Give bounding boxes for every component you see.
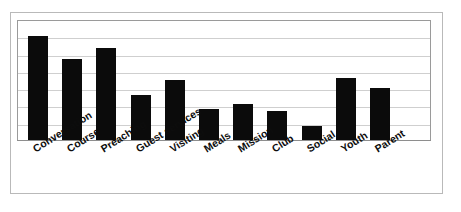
bar — [28, 36, 48, 140]
bar-chart-figure: ConversationCoursePreachingGuest service… — [0, 0, 461, 212]
x-axis-tick-labels: ConversationCoursePreachingGuest service… — [17, 141, 431, 193]
bar — [336, 78, 356, 140]
bar — [370, 88, 390, 140]
bar — [96, 48, 116, 140]
